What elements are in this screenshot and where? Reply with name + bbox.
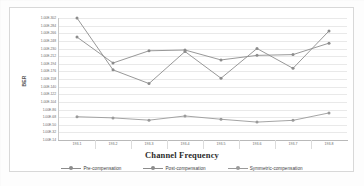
y-axis-tick-label: 1.00E-194 [41, 62, 56, 66]
x-axis-tick-label: 193.8 [325, 142, 334, 146]
data-point [220, 118, 223, 121]
x-axis-tick-mark [311, 140, 312, 149]
legend-item[interactable]: Pre-compensation [61, 165, 121, 171]
y-axis-tick-label: 1.00E-122 [41, 92, 56, 96]
series-1 [76, 17, 331, 86]
x-axis-tick-label: 193.6 [253, 142, 262, 146]
legend-label: Post-compensation [165, 166, 205, 171]
series-line [77, 37, 329, 63]
y-axis-tick-label: 1.00E-68 [43, 115, 56, 119]
legend-label: Pre-compensation [83, 166, 121, 171]
legend-item[interactable]: Post-compensation [143, 165, 205, 171]
data-point [148, 49, 151, 52]
series-layer [59, 18, 347, 140]
data-point [292, 67, 295, 70]
chart-legend: Pre-compensationPost-compensationSymmetr… [0, 165, 364, 171]
data-point [148, 82, 151, 85]
data-point [292, 119, 295, 122]
x-axis-tick-label: 193.3 [145, 142, 154, 146]
data-point [328, 29, 331, 32]
data-point [76, 115, 79, 118]
x-axis-tick-mark [131, 140, 132, 149]
y-axis-tick-label: 1.00E-140 [41, 85, 56, 89]
data-point [76, 17, 79, 20]
legend-marker-icon [143, 165, 163, 171]
data-point [112, 116, 115, 119]
legend-label: Symmetric-compensation [250, 166, 303, 171]
data-point [76, 36, 79, 39]
x-axis-title: Channel Frequency [0, 150, 364, 160]
y-axis-tick-label: 1.00E-86 [43, 108, 56, 112]
series-3 [76, 111, 331, 123]
legend-item[interactable]: Symmetric-compensation [228, 165, 303, 171]
x-axis-tick-label: 193.4 [181, 142, 190, 146]
data-point [328, 42, 331, 45]
x-axis-tick-mark [275, 140, 276, 149]
data-point [220, 77, 223, 80]
data-point [328, 111, 331, 114]
data-point [184, 114, 187, 117]
y-axis-tick-label: 1.00E-302 [41, 16, 56, 20]
data-point [148, 119, 151, 122]
y-axis-tick-labels: 1.00E-3021.00E-2841.00E-2661.00E-2481.00… [0, 18, 58, 140]
series-line [77, 113, 329, 122]
data-point [292, 53, 295, 56]
data-point [256, 121, 259, 124]
x-axis-tick-mark [239, 140, 240, 149]
y-axis-tick-label: 1.00E-284 [41, 24, 56, 28]
series-2 [76, 36, 331, 65]
y-axis-tick-label: 1.00E-230 [41, 47, 56, 51]
data-point [220, 58, 223, 61]
x-axis-tick-mark [203, 140, 204, 149]
y-axis-tick-label: 1.00E-104 [41, 100, 56, 104]
legend-marker-icon [228, 165, 248, 171]
data-point [184, 49, 187, 52]
series-line [77, 18, 329, 84]
x-axis-tick-label: 193.2 [109, 142, 118, 146]
data-point [256, 54, 259, 57]
x-axis-tick-label: 193.7 [289, 142, 298, 146]
x-axis-tick-label: 193.1 [73, 142, 82, 146]
chart-figure: BER 1.00E-3021.00E-2841.00E-2661.00E-248… [0, 0, 364, 186]
y-axis-tick-label: 1.00E-32 [43, 130, 56, 134]
plot-area [59, 18, 347, 140]
y-axis-tick-label: 1.00E-158 [41, 77, 56, 81]
data-point [112, 61, 115, 64]
y-axis-tick-label: 1.00E-14 [43, 138, 56, 142]
y-axis-tick-label: 1.00E-248 [41, 39, 56, 43]
y-axis-tick-label: 1.00E-176 [41, 69, 56, 73]
data-point [256, 47, 259, 50]
y-axis-tick-label: 1.00E-212 [41, 54, 56, 58]
data-point [112, 68, 115, 71]
x-axis-tick-mark [95, 140, 96, 149]
legend-marker-icon [61, 165, 81, 171]
y-axis-tick-label: 1.00E-266 [41, 31, 56, 35]
x-axis-tick-label: 193.5 [217, 142, 226, 146]
x-axis-tick-mark [167, 140, 168, 149]
y-axis-tick-label: 1.00E-50 [43, 123, 56, 127]
